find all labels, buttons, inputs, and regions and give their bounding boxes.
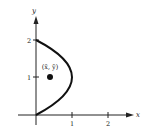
region-diagram: 1 2 1 2 y x (x̄, ȳ) bbox=[0, 0, 147, 135]
y-axis-arrow-icon bbox=[34, 16, 39, 24]
x-tick-label-1: 1 bbox=[70, 120, 74, 128]
centroid-label: (x̄, ȳ) bbox=[42, 63, 59, 71]
x-axis-arrow-icon bbox=[126, 113, 134, 118]
y-axis-label: y bbox=[31, 7, 37, 15]
y-tick-label-2: 2 bbox=[27, 37, 31, 45]
x-axis-label: x bbox=[136, 111, 140, 119]
y-tick-label-1: 1 bbox=[27, 74, 31, 82]
centroid-point bbox=[47, 74, 53, 80]
x-tick-label-2: 2 bbox=[106, 120, 110, 128]
parabola-curve bbox=[36, 40, 72, 115]
